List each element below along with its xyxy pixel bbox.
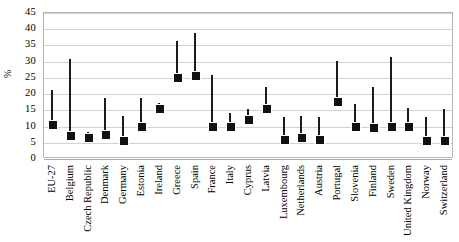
data-point-group[interactable] — [435, 12, 453, 158]
x-axis-tick-label: Austria — [310, 165, 328, 242]
y-axis-tick-label: 10 — [25, 120, 36, 131]
data-point-group[interactable] — [96, 12, 114, 158]
data-point-group[interactable] — [292, 12, 310, 158]
data-point-marker[interactable] — [84, 133, 94, 143]
data-point-group[interactable] — [186, 12, 204, 158]
data-point-group[interactable] — [346, 12, 364, 158]
x-axis-tick-label: United Kingdom — [399, 165, 417, 242]
data-point-marker[interactable] — [101, 130, 111, 140]
data-point-marker[interactable] — [173, 73, 183, 83]
data-point-marker[interactable] — [191, 71, 201, 81]
range-bar — [372, 87, 374, 128]
data-point-group[interactable] — [328, 12, 346, 158]
x-axis-tick-label: France — [203, 165, 221, 242]
x-axis-tick-label: Czech Republic — [79, 165, 97, 242]
data-point-group[interactable] — [417, 12, 435, 158]
data-point-group[interactable] — [221, 12, 239, 158]
data-point-marker[interactable] — [244, 115, 254, 125]
data-point-group[interactable] — [79, 12, 97, 158]
x-axis-tick-label: Cyprus — [239, 165, 257, 242]
y-axis-tick-label: 45 — [25, 7, 36, 18]
x-axis-tick-label: Italy — [221, 165, 239, 242]
x-axis-tick-label: Norway — [417, 165, 435, 242]
data-point-marker[interactable] — [119, 136, 129, 146]
data-point-marker[interactable] — [333, 97, 343, 107]
x-axis-tick-label: Ireland — [150, 165, 168, 242]
range-bar — [51, 90, 53, 124]
y-axis-tick-label: 20 — [25, 88, 36, 99]
data-point-group[interactable] — [364, 12, 382, 158]
data-point-marker[interactable] — [440, 136, 450, 146]
range-bar — [194, 33, 196, 75]
x-axis-tick-label: Greece — [168, 165, 186, 242]
series-layer — [43, 12, 453, 158]
data-point-marker[interactable] — [351, 122, 361, 132]
y-axis-tick-labels: 051015202530354045 — [0, 12, 41, 158]
data-point-group[interactable] — [168, 12, 186, 158]
x-axis-tick-label: Switzerland — [435, 165, 453, 242]
range-bar — [390, 57, 392, 125]
x-axis-tick-label: Portugal — [328, 165, 346, 242]
x-axis-tick-label: Sweden — [382, 165, 400, 242]
x-axis-tick-label: Germany — [114, 165, 132, 242]
data-point-marker[interactable] — [315, 135, 325, 145]
x-axis-tick-label: Estonia — [132, 165, 150, 242]
x-axis-tick-label: Spain — [186, 165, 204, 242]
data-point-group[interactable] — [239, 12, 257, 158]
y-axis-tick-label: 15 — [25, 104, 36, 115]
data-point-marker[interactable] — [369, 123, 379, 133]
data-point-group[interactable] — [43, 12, 61, 158]
y-axis-tick-label: 5 — [31, 137, 36, 148]
data-point-group[interactable] — [203, 12, 221, 158]
x-axis-tick-label: Belgium — [61, 165, 79, 242]
data-point-marker[interactable] — [422, 136, 432, 146]
data-point-marker[interactable] — [280, 135, 290, 145]
data-point-group[interactable] — [310, 12, 328, 158]
y-axis-tick-label: 35 — [25, 39, 36, 50]
y-axis-tick-label: 25 — [25, 72, 36, 83]
range-bar — [104, 98, 106, 134]
data-point-group[interactable] — [114, 12, 132, 158]
data-point-group[interactable] — [150, 12, 168, 158]
data-point-group[interactable] — [61, 12, 79, 158]
x-axis-tick-label: Luxembourg — [275, 165, 293, 242]
data-point-group[interactable] — [275, 12, 293, 158]
x-axis-tick-label: Latvia — [257, 165, 275, 242]
data-point-group[interactable] — [257, 12, 275, 158]
x-axis-tick-label: Finland — [364, 165, 382, 242]
range-bar — [176, 41, 178, 77]
data-point-marker[interactable] — [48, 120, 58, 130]
data-point-group[interactable] — [382, 12, 400, 158]
range-bar — [211, 75, 213, 125]
data-point-marker[interactable] — [226, 122, 236, 132]
data-point-marker[interactable] — [208, 122, 218, 132]
range-bar — [69, 59, 71, 135]
data-point-group[interactable] — [132, 12, 150, 158]
y-axis-tick-label: 30 — [25, 55, 36, 66]
x-axis-tick-label: Netherlands — [292, 165, 310, 242]
data-point-marker[interactable] — [66, 131, 76, 141]
y-axis-tick-label: 40 — [25, 23, 36, 34]
y-axis-tick-label: 0 — [31, 153, 36, 164]
data-point-group[interactable] — [399, 12, 417, 158]
range-bar — [336, 61, 338, 102]
data-point-marker[interactable] — [262, 104, 272, 114]
x-axis-tick-label: EU-27 — [43, 165, 61, 242]
data-point-marker[interactable] — [137, 122, 147, 132]
chart-figure: % 051015202530354045 EU-27BelgiumCzech R… — [0, 0, 459, 242]
data-point-marker[interactable] — [297, 133, 307, 143]
x-axis-tick-label: Slovenia — [346, 165, 364, 242]
x-axis-tick-labels: EU-27BelgiumCzech RepublicDenmarkGermany… — [43, 160, 453, 242]
data-point-marker[interactable] — [387, 122, 397, 132]
data-point-marker[interactable] — [155, 104, 165, 114]
data-point-marker[interactable] — [404, 122, 414, 132]
x-axis-tick-label: Denmark — [96, 165, 114, 242]
